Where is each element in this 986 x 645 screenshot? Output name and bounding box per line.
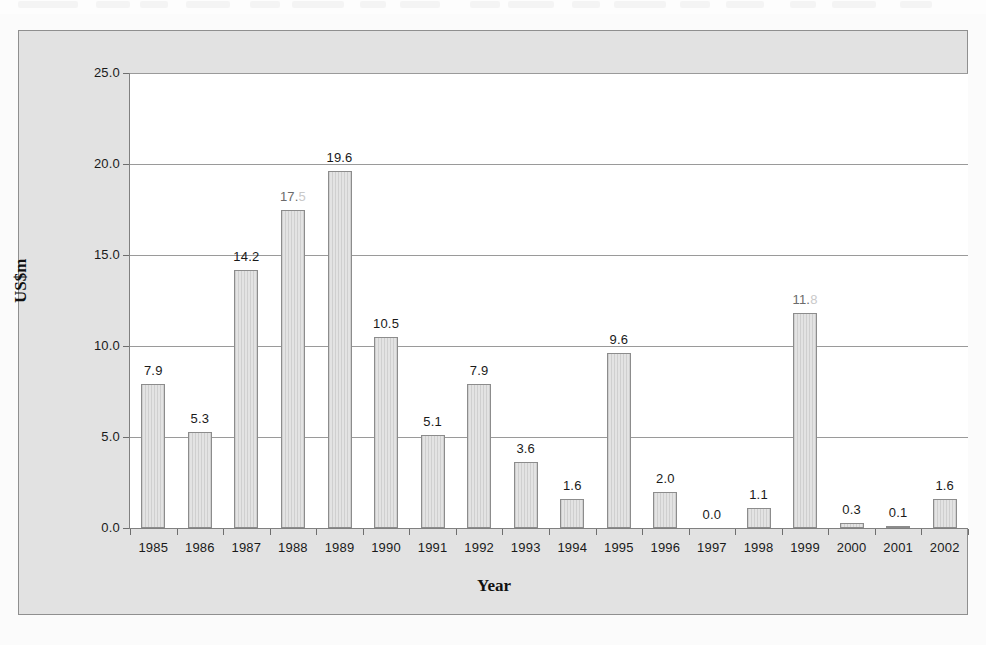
bar-value-label: 1.1	[749, 487, 768, 502]
y-tick-mark	[123, 437, 129, 438]
y-axis-title: US$m	[11, 259, 31, 303]
x-tick-mark	[363, 529, 364, 535]
bar	[560, 499, 584, 528]
x-tick-label: 1988	[268, 540, 318, 555]
bar	[234, 270, 258, 528]
bar-value-label: 7.9	[144, 363, 163, 378]
scan-artifact-smudge	[832, 1, 876, 8]
scan-artifact-smudge	[140, 1, 168, 8]
x-tick-label: 1986	[175, 540, 225, 555]
x-tick-label: 1997	[687, 540, 737, 555]
bar	[886, 526, 910, 528]
bar	[281, 210, 305, 529]
x-tick-mark	[689, 529, 690, 535]
x-tick-mark	[642, 529, 643, 535]
x-tick-mark	[968, 529, 969, 535]
bar-value-label: 11.8	[792, 292, 817, 307]
x-tick-label: 1999	[780, 540, 830, 555]
x-tick-mark	[456, 529, 457, 535]
x-tick-label: 1992	[454, 540, 504, 555]
x-tick-mark	[921, 529, 922, 535]
x-tick-mark	[735, 529, 736, 535]
bar	[374, 337, 398, 528]
bar-value-label: 0.3	[842, 502, 861, 517]
x-tick-mark	[828, 529, 829, 535]
y-tick-mark	[123, 164, 129, 165]
bar-value-label: 1.6	[935, 478, 954, 493]
x-tick-mark	[502, 529, 503, 535]
x-tick-mark	[223, 529, 224, 535]
bar-value-label: 5.3	[190, 411, 209, 426]
scan-artifact-smudge	[614, 1, 666, 8]
y-tick-label: 25.0	[68, 65, 120, 80]
bar	[188, 432, 212, 528]
bar-value-label: 2.0	[656, 471, 675, 486]
scan-artifact-smudge	[400, 1, 440, 8]
bar	[421, 435, 445, 528]
bar-value-label: 17.5	[280, 189, 306, 204]
scan-artifact-smudge	[18, 1, 78, 8]
x-tick-label: 1994	[547, 540, 597, 555]
bar	[747, 508, 771, 528]
x-tick-label: 1993	[501, 540, 551, 555]
scan-artifact-smudge	[250, 1, 280, 8]
bar-value-label: 14.2	[233, 249, 259, 264]
x-tick-label: 2000	[827, 540, 877, 555]
scan-artifact-smudge	[726, 1, 764, 8]
x-tick-mark	[782, 529, 783, 535]
x-tick-mark	[130, 529, 131, 535]
bar-value-label: 9.6	[609, 332, 628, 347]
x-tick-mark	[875, 529, 876, 535]
gridline	[130, 73, 968, 74]
x-tick-label: 2001	[873, 540, 923, 555]
x-tick-mark	[270, 529, 271, 535]
bar	[328, 171, 352, 528]
gridline	[130, 164, 968, 165]
scan-artifact-smudge	[470, 1, 500, 8]
scan-artifact-smudge	[790, 1, 816, 8]
x-tick-label: 1990	[361, 540, 411, 555]
bar	[933, 499, 957, 528]
y-tick-label: 15.0	[68, 247, 120, 262]
bar-value-label: 0.1	[889, 505, 908, 520]
scan-top-artifact	[0, 0, 986, 14]
bar-value-label: 0.0	[703, 507, 722, 522]
bar-value-label: 1.6	[563, 478, 582, 493]
x-tick-label: 1996	[640, 540, 690, 555]
bar-value-label: 3.6	[516, 441, 535, 456]
y-tick-label: 0.0	[68, 520, 120, 535]
bar	[793, 313, 817, 528]
y-tick-mark	[123, 346, 129, 347]
scan-artifact-smudge	[186, 1, 230, 8]
x-tick-mark	[549, 529, 550, 535]
y-tick-mark	[123, 528, 129, 529]
x-tick-label: 1987	[221, 540, 271, 555]
bar	[607, 353, 631, 528]
x-tick-mark	[409, 529, 410, 535]
figure-frame: US$m 0.05.010.015.020.025.0 7.95.314.217…	[18, 30, 968, 615]
x-tick-mark	[596, 529, 597, 535]
y-tick-label: 5.0	[68, 429, 120, 444]
y-tick-label: 10.0	[68, 338, 120, 353]
scan-artifact-smudge	[900, 1, 932, 8]
bar-value-label: 7.9	[470, 363, 489, 378]
bar	[467, 384, 491, 528]
x-tick-label: 1998	[734, 540, 784, 555]
scan-artifact-smudge	[572, 1, 600, 8]
bar	[653, 492, 677, 528]
x-tick-label: 1989	[315, 540, 365, 555]
bar	[514, 462, 538, 528]
x-tick-mark	[177, 529, 178, 535]
bar	[840, 523, 864, 528]
x-axis-title: Year	[19, 576, 969, 596]
x-tick-label: 1995	[594, 540, 644, 555]
scan-artifact-smudge	[292, 1, 344, 8]
scan-artifact-smudge	[680, 1, 710, 8]
bar	[141, 384, 165, 528]
x-tick-label: 1985	[128, 540, 178, 555]
y-axis-line	[129, 73, 130, 529]
scan-artifact-smudge	[96, 1, 130, 8]
scan-artifact-smudge	[360, 1, 386, 8]
y-tick-mark	[123, 73, 129, 74]
bar-value-label: 5.1	[423, 414, 442, 429]
